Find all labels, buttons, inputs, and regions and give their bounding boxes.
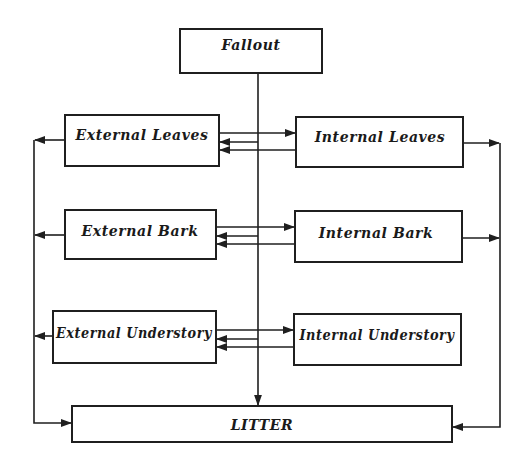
node-label-litter: LITTER xyxy=(230,417,294,433)
node-label-internal-understory: Internal Understory xyxy=(299,327,455,343)
node-label-internal-leaves: Internal Leaves xyxy=(314,129,446,145)
node-fallout: Fallout xyxy=(180,29,322,73)
node-external-understory: External Understory xyxy=(53,311,216,363)
node-internal-bark: Internal Bark xyxy=(295,211,462,262)
left-bus-to-litter-line xyxy=(34,140,71,423)
node-litter: LITTER xyxy=(72,406,452,442)
compartment-flow-diagram: Fallout External Leaves Internal Leaves … xyxy=(0,0,532,467)
node-external-bark: External Bark xyxy=(65,210,216,259)
node-label-internal-bark: Internal Bark xyxy=(318,225,434,241)
node-label-external-understory: External Understory xyxy=(55,325,212,341)
node-internal-leaves: Internal Leaves xyxy=(296,117,463,167)
node-label-fallout: Fallout xyxy=(220,37,280,53)
node-label-external-leaves: External Leaves xyxy=(75,127,209,143)
node-external-leaves: External Leaves xyxy=(65,115,219,166)
node-internal-understory: Internal Understory xyxy=(294,314,461,365)
node-label-external-bark: External Bark xyxy=(81,223,199,239)
right-bus-to-litter-line xyxy=(453,143,500,427)
